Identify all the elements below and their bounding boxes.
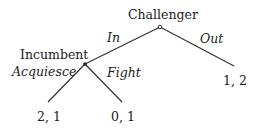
payoff-acquiesce: 2, 1 bbox=[37, 109, 61, 124]
payoff-fight: 0, 1 bbox=[111, 109, 135, 124]
game-tree: Challenger Incumbent In Out Acquiesce Fi… bbox=[0, 0, 255, 131]
root-node bbox=[158, 25, 162, 29]
challenger-label: Challenger bbox=[128, 7, 198, 22]
action-in-label: In bbox=[106, 30, 120, 45]
action-acquiesce-label: Acquiesce bbox=[11, 64, 76, 79]
incumbent-label: Incumbent bbox=[20, 47, 88, 62]
payoff-out: 1, 2 bbox=[223, 73, 247, 88]
action-fight-label: Fight bbox=[106, 65, 142, 80]
edge-in bbox=[85, 27, 160, 64]
action-out-label: Out bbox=[200, 31, 224, 46]
incumbent-node bbox=[83, 62, 87, 66]
